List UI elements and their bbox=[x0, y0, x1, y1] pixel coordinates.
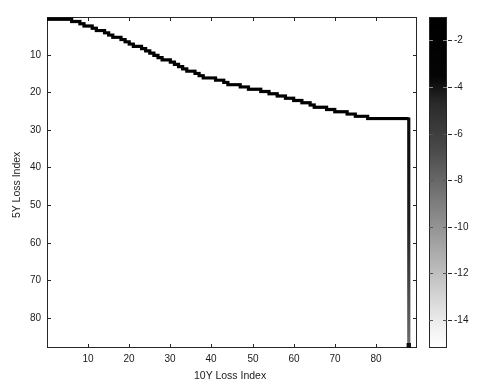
colorbar-tick-mark-left bbox=[429, 320, 433, 321]
colorbar-tick-mark-left bbox=[429, 134, 433, 135]
colorbar-tick-connector bbox=[448, 273, 452, 274]
x-tick-mark bbox=[253, 344, 254, 348]
y-tick-mark-right bbox=[413, 205, 417, 206]
y-tick-mark-right bbox=[413, 55, 417, 56]
colorbar-tick-label: -6 bbox=[454, 129, 463, 139]
colorbar-tick-mark-right bbox=[443, 273, 447, 274]
x-tick-mark-top bbox=[294, 17, 295, 21]
y-tick-mark-right bbox=[413, 92, 417, 93]
figure-canvas: 1020304050607080 1020304050607080 10Y Lo… bbox=[0, 0, 482, 389]
x-tick-label: 40 bbox=[202, 354, 220, 364]
colorbar-frame bbox=[429, 17, 447, 348]
y-tick-label: 40 bbox=[21, 162, 41, 172]
y-tick-label: 70 bbox=[21, 275, 41, 285]
x-tick-label: 70 bbox=[326, 354, 344, 364]
colorbar-tick-connector bbox=[448, 134, 452, 135]
y-tick-mark bbox=[47, 130, 51, 131]
y-tick-mark bbox=[47, 92, 51, 93]
colorbar-tick-mark-left bbox=[429, 180, 433, 181]
y-tick-mark-right bbox=[413, 167, 417, 168]
x-tick-mark-top bbox=[88, 17, 89, 21]
y-tick-mark-right bbox=[413, 280, 417, 281]
colorbar-tick-mark-right bbox=[443, 40, 447, 41]
colorbar-tick-label: -14 bbox=[454, 315, 468, 325]
colorbar-tick-mark-left bbox=[429, 87, 433, 88]
colorbar-tick-mark-right bbox=[443, 87, 447, 88]
colorbar-tick-label: -2 bbox=[454, 35, 463, 45]
y-tick-mark bbox=[47, 243, 51, 244]
y-tick-mark bbox=[47, 55, 51, 56]
y-tick-label: 20 bbox=[21, 87, 41, 97]
colorbar-tick-mark-right bbox=[443, 320, 447, 321]
x-tick-mark-top bbox=[129, 17, 130, 21]
y-tick-label: 60 bbox=[21, 238, 41, 248]
colorbar-tick-connector bbox=[448, 180, 452, 181]
x-tick-mark bbox=[129, 344, 130, 348]
x-tick-mark-top bbox=[170, 17, 171, 21]
colorbar-tick-mark-left bbox=[429, 40, 433, 41]
x-tick-label: 80 bbox=[367, 354, 385, 364]
y-tick-mark-right bbox=[413, 130, 417, 131]
y-tick-label: 80 bbox=[21, 313, 41, 323]
x-tick-mark-top bbox=[253, 17, 254, 21]
colorbar-tick-mark-right bbox=[443, 227, 447, 228]
x-tick-label: 50 bbox=[244, 354, 262, 364]
x-tick-mark-top bbox=[335, 17, 336, 21]
x-tick-label: 30 bbox=[161, 354, 179, 364]
x-tick-mark bbox=[170, 344, 171, 348]
y-tick-label: 30 bbox=[21, 125, 41, 135]
colorbar-tick-mark-right bbox=[443, 134, 447, 135]
colorbar-tick-connector bbox=[448, 227, 452, 228]
x-tick-label: 20 bbox=[120, 354, 138, 364]
y-tick-mark-right bbox=[413, 243, 417, 244]
colorbar-tick-label: -12 bbox=[454, 268, 468, 278]
y-tick-mark bbox=[47, 280, 51, 281]
colorbar-tick-mark-left bbox=[429, 273, 433, 274]
x-tick-mark bbox=[88, 344, 89, 348]
x-tick-label: 60 bbox=[285, 354, 303, 364]
y-tick-label: 10 bbox=[21, 50, 41, 60]
y-tick-mark bbox=[47, 205, 51, 206]
loss-index-staircase-plot bbox=[0, 0, 482, 389]
y-axis-title: 5Y Loss Index bbox=[11, 151, 22, 217]
y-tick-mark bbox=[47, 318, 51, 319]
colorbar-tick-mark-left bbox=[429, 227, 433, 228]
y-tick-label: 50 bbox=[21, 200, 41, 210]
colorbar-tick-connector bbox=[448, 40, 452, 41]
colorbar-tick-label: -8 bbox=[454, 175, 463, 185]
x-axis-title: 10Y Loss Index bbox=[194, 370, 266, 381]
colorbar-tick-mark-right bbox=[443, 180, 447, 181]
x-tick-mark-top bbox=[211, 17, 212, 21]
x-tick-mark-top bbox=[376, 17, 377, 21]
x-tick-mark bbox=[376, 344, 377, 348]
x-tick-mark bbox=[211, 344, 212, 348]
x-tick-label: 10 bbox=[79, 354, 97, 364]
colorbar-tick-label: -10 bbox=[454, 222, 468, 232]
colorbar-tick-connector bbox=[448, 87, 452, 88]
x-tick-mark bbox=[294, 344, 295, 348]
x-tick-mark bbox=[335, 344, 336, 348]
colorbar-tick-label: -4 bbox=[454, 82, 463, 92]
colorbar-tick-connector bbox=[448, 320, 452, 321]
y-tick-mark-right bbox=[413, 318, 417, 319]
y-tick-mark bbox=[47, 167, 51, 168]
